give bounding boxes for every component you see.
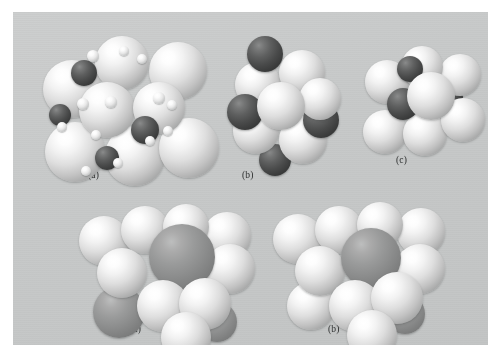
panel-top-a [33, 26, 203, 176]
figure-root: (a) (b) (c) (a) (b) [0, 0, 502, 356]
sphere-tiny [137, 54, 147, 64]
sphere-tiny [57, 122, 67, 132]
sphere-tiny [153, 92, 165, 104]
sphere-lite [407, 72, 455, 120]
sphere-tiny [145, 136, 155, 146]
sphere-tiny [105, 96, 117, 108]
sphere-tiny [163, 126, 173, 136]
sphere-dark [71, 60, 97, 86]
sphere-tiny [167, 100, 177, 110]
sphere-tiny [81, 166, 91, 176]
figure-plate: (a) (b) (c) (a) (b) [13, 12, 488, 345]
sphere-lite [257, 82, 305, 130]
caption-top-c: (c) [396, 155, 407, 165]
panel-bottom-b [271, 198, 451, 343]
caption-top-b: (b) [242, 170, 254, 180]
sphere-tiny [77, 98, 89, 110]
sphere-lite [97, 248, 147, 298]
sphere-tiny [87, 50, 99, 62]
panel-top-c [361, 36, 481, 166]
sphere-tiny [113, 158, 123, 168]
sphere-tiny [91, 130, 101, 140]
sphere-tiny [119, 46, 129, 56]
panel-top-b [227, 32, 347, 172]
sphere-lite [79, 82, 135, 138]
sphere-dark [247, 36, 283, 72]
panel-bottom-a [75, 198, 255, 343]
sphere-lite [299, 78, 341, 120]
